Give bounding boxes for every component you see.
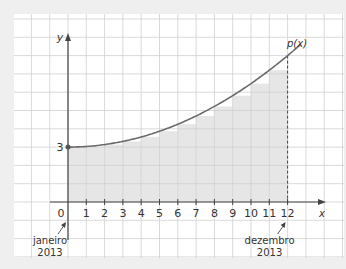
y-axis-label: y xyxy=(56,31,64,44)
shade-step xyxy=(160,131,178,202)
x-tick-label: 2 xyxy=(101,207,108,220)
shade-step xyxy=(214,106,232,202)
y-tick-label: 3 xyxy=(57,141,64,154)
annotation-line1: janeiro xyxy=(32,235,67,246)
x-tick-label: 11 xyxy=(262,207,276,220)
x-tick-label: 10 xyxy=(244,207,258,220)
x-tick-label: 3 xyxy=(119,207,126,220)
chart: 01234567891011123xyp(x)janeiro2013dezemb… xyxy=(0,0,346,269)
shade-step xyxy=(86,147,104,202)
shade-step xyxy=(233,96,251,202)
x-tick-label: 6 xyxy=(174,207,181,220)
shade-step xyxy=(68,147,86,202)
x-tick-label: 5 xyxy=(156,207,163,220)
annotation-line2: 2013 xyxy=(37,247,62,258)
annotation-line1: dezembro xyxy=(245,235,295,246)
x-tick-label: 8 xyxy=(211,207,218,220)
shade-step xyxy=(251,84,269,202)
shade-step xyxy=(141,137,159,202)
shade-step xyxy=(105,145,123,202)
shade-step xyxy=(123,141,141,202)
marked-point xyxy=(66,145,71,150)
shade-step xyxy=(178,124,196,202)
x-tick-label: 9 xyxy=(229,207,236,220)
annotation-line2: 2013 xyxy=(257,247,282,258)
x-tick-label: 12 xyxy=(281,207,295,220)
x-tick-label: 4 xyxy=(138,207,145,220)
x-tick-label: 7 xyxy=(193,207,200,220)
x-tick-label: 0 xyxy=(58,207,65,220)
x-tick-label: 1 xyxy=(83,207,90,220)
curve-label: p(x) xyxy=(286,38,307,49)
x-axis-label: x xyxy=(318,208,325,219)
shade-step xyxy=(269,70,287,202)
